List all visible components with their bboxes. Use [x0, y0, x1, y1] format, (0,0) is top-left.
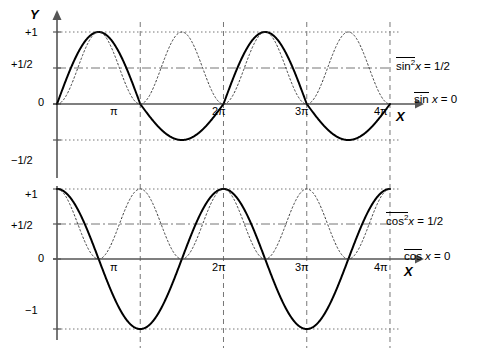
- top-ytick-1: +1: [25, 27, 38, 38]
- annotation-mean-sin: sin x = 0: [414, 92, 457, 106]
- top-xtick-pi: π: [110, 106, 118, 117]
- top-xtick-2pi: 2π: [212, 106, 226, 117]
- bottom-ytick-1: +1: [25, 189, 38, 200]
- top-ytick-neg-half: −1/2: [11, 155, 33, 166]
- bottom-xtick-2pi: 2π: [212, 262, 226, 273]
- annotation-mean-sin-overline: sin: [414, 92, 429, 106]
- annotation-mean-cos-squared: cos2x = 1/2: [386, 212, 443, 227]
- bottom-xtick-pi: π: [110, 262, 118, 273]
- bottom-xtick-3pi: 3π: [295, 262, 309, 273]
- bottom-ytick-half: +1/2: [11, 220, 33, 231]
- annotation-mean-sin-squared-overline: sin2: [396, 57, 415, 72]
- annotation-mean-cos: cos x = 0: [404, 249, 450, 263]
- top-xtick-3pi: 3π: [295, 106, 309, 117]
- figure-canvas: Y +1 +1/2 0 −1/2 π 2π 3π 4π X sin2x = 1/…: [0, 0, 495, 357]
- y-axis-arrow: [53, 10, 62, 20]
- annotation-mean-sin-squared: sin2x = 1/2: [396, 57, 450, 72]
- bottom-x-axis-label: X: [404, 265, 413, 278]
- y-axis-label: Y: [30, 8, 39, 21]
- bottom-ytick-neg-1: −1: [25, 305, 38, 316]
- annotation-mean-cos-squared-overline: cos2: [386, 212, 408, 227]
- top-xtick-4pi: 4π: [374, 106, 388, 117]
- top-ytick-half: +1/2: [11, 59, 33, 70]
- annotation-mean-cos-overline: cos: [404, 249, 422, 263]
- top-ytick-0: 0: [38, 97, 44, 108]
- bottom-xtick-4pi: 4π: [374, 262, 388, 273]
- top-x-axis-label: X: [396, 110, 405, 123]
- bottom-ytick-0: 0: [38, 253, 44, 264]
- plot-svg: [0, 0, 495, 357]
